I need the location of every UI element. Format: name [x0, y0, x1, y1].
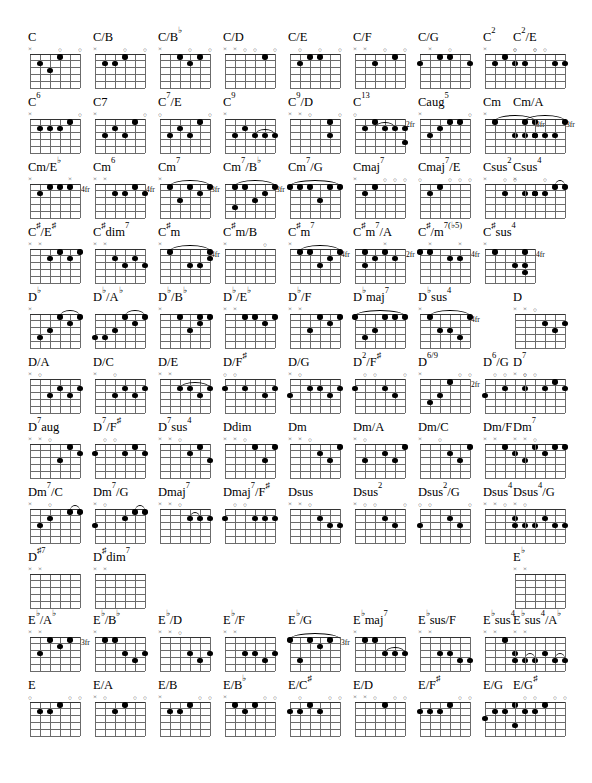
chord-cell[interactable]: D♭maj7: [353, 290, 417, 354]
chord-cell[interactable]: D/A×○: [28, 355, 92, 419]
open-string-icon: ○: [522, 501, 529, 508]
chord-cell[interactable]: C7/E○○: [158, 95, 222, 159]
chord-cell[interactable]: Cm/E♭××4fr: [28, 160, 92, 224]
chord-cell[interactable]: D♭/F××: [288, 290, 352, 354]
finger-dot: [242, 386, 247, 391]
chord-cell[interactable]: D♭×: [28, 290, 92, 354]
chord-cell[interactable]: D7sus4××○: [158, 420, 222, 484]
chord-cell[interactable]: Dmaj7××○: [158, 485, 222, 549]
chord-cell[interactable]: Caug5×○: [418, 95, 482, 159]
chord-cell[interactable]: D/E××: [158, 355, 222, 419]
open-string-icon: ○: [197, 694, 204, 701]
chord-cell[interactable]: D♭/A♭: [93, 290, 157, 354]
finger-dot: [542, 321, 547, 326]
chord-cell[interactable]: C♯/m7(♭5)××4fr: [418, 225, 482, 289]
chord-cell[interactable]: C♯sus4×4fr: [483, 225, 547, 289]
chord-cell[interactable]: D♯7××: [28, 550, 92, 614]
fretboard-grid: [420, 702, 470, 736]
chord-cell[interactable]: C♯/E♯××: [28, 225, 92, 289]
chord-cell[interactable]: C♯m×4fr: [158, 225, 222, 289]
chord-cell[interactable]: Cm/A3fr: [513, 95, 577, 159]
chord-cell[interactable]: E/A×○○○: [93, 678, 157, 742]
chord-cell[interactable]: C13○2fr: [353, 95, 417, 159]
chord-cell[interactable]: D2/F♯○○○: [353, 355, 417, 419]
chord-cell[interactable]: Cm7/G: [288, 160, 352, 224]
chord-cell[interactable]: C/B×○○: [93, 30, 157, 94]
chord-cell[interactable]: C7×○: [93, 95, 157, 159]
chord-cell[interactable]: Dsus2/G○○○: [418, 485, 482, 549]
chord-cell[interactable]: E○○○: [28, 678, 92, 742]
open-string-icon: ○: [37, 371, 44, 378]
chord-cell[interactable]: E♭/D××○: [158, 613, 222, 677]
chord-cell[interactable]: E/B×○○: [158, 678, 222, 742]
chord-cell[interactable]: E/B♭×○○: [223, 678, 287, 742]
chord-cell[interactable]: C/B♭×○○: [158, 30, 222, 94]
chord-cell[interactable]: C9×: [223, 95, 287, 159]
chord-cell[interactable]: D/F♯○○: [223, 355, 287, 419]
chord-cell[interactable]: E/G♯○○: [513, 678, 577, 742]
chord-cell[interactable]: E♭/A♭××3fr: [28, 613, 92, 677]
chord-cell[interactable]: Dm7/G×○: [93, 485, 157, 549]
chord-cell[interactable]: E♭/F××: [223, 613, 287, 677]
chord-cell[interactable]: Dm××○: [288, 420, 352, 484]
chord-cell[interactable]: Ddim××○: [223, 420, 287, 484]
chord-cell[interactable]: C/F××○○: [353, 30, 417, 94]
chord-cell[interactable]: E♭sus/F××: [418, 613, 482, 677]
chord-cell[interactable]: C6×○: [28, 95, 92, 159]
chord-diagram: ○○: [225, 501, 287, 547]
chord-cell[interactable]: D♭sus4×4fr: [418, 290, 482, 354]
chord-cell[interactable]: Dsus2×○○○: [353, 485, 417, 549]
chord-cell[interactable]: Dm7××○: [513, 420, 577, 484]
chord-cell[interactable]: C♯m7×4fr: [288, 225, 352, 289]
chord-cell[interactable]: Csus4×○: [513, 160, 577, 224]
chord-cell[interactable]: Cm6××4fr: [93, 160, 157, 224]
string-markers: ×○○: [515, 371, 567, 378]
chord-cell[interactable]: D7aug××○: [28, 420, 92, 484]
chord-cell[interactable]: E♭/B♭×: [93, 613, 157, 677]
chord-cell[interactable]: C/D××○○○: [223, 30, 287, 94]
finger-dot: [177, 314, 182, 319]
chord-cell[interactable]: Dm7/C×○: [28, 485, 92, 549]
chord-cell[interactable]: Dmaj7/F♯○○: [223, 485, 287, 549]
chord-cell[interactable]: C2/E○○○: [513, 30, 577, 94]
open-string-icon: ○: [457, 176, 464, 183]
open-string-icon: ○: [77, 694, 84, 701]
chord-cell[interactable]: D♭/B♭×: [158, 290, 222, 354]
finger-dot: [392, 54, 397, 59]
chord-cell[interactable]: C♯dim7××: [93, 225, 157, 289]
chord-cell[interactable]: C/E○○○: [288, 30, 352, 94]
chord-cell[interactable]: D6/9×○○2fr: [418, 355, 482, 419]
chord-cell[interactable]: E/C♯○○○: [288, 678, 352, 742]
chord-cell[interactable]: E♭××: [513, 550, 577, 614]
chord-cell[interactable]: E♭/G3fr: [288, 613, 352, 677]
chord-cell[interactable]: D7/F♯○○: [93, 420, 157, 484]
chord-cell[interactable]: Dm/C×○: [418, 420, 482, 484]
chord-cell[interactable]: C♯m/B×○: [223, 225, 287, 289]
chord-cell[interactable]: D♭/E♭××: [223, 290, 287, 354]
chord-cell[interactable]: E/D××○○○: [353, 678, 417, 742]
open-string-icon: ○: [392, 176, 399, 183]
chord-cell[interactable]: D/G×○: [288, 355, 352, 419]
chord-cell[interactable]: D××○: [513, 290, 577, 354]
chord-cell[interactable]: D7×○○: [513, 355, 577, 419]
chord-cell[interactable]: Dm/A×○: [353, 420, 417, 484]
chord-diagram: ×○: [30, 371, 92, 417]
chord-cell[interactable]: C×○○: [28, 30, 92, 94]
muted-string-icon: ×: [37, 436, 44, 443]
chord-cell[interactable]: E/F♯○○: [418, 678, 482, 742]
chord-cell[interactable]: Cmaj7/E○○○○: [418, 160, 482, 224]
finger-dot: [142, 263, 147, 268]
chord-cell[interactable]: Cmaj7×○○○: [353, 160, 417, 224]
chord-cell[interactable]: D/C×○: [93, 355, 157, 419]
chord-cell[interactable]: C9/D××○○: [288, 95, 352, 159]
chord-cell[interactable]: E♭maj7×: [353, 613, 417, 677]
chord-cell[interactable]: D♯dim7××: [93, 550, 157, 614]
chord-cell[interactable]: Cm7×3fr: [158, 160, 222, 224]
chord-cell[interactable]: Dsus××○: [288, 485, 352, 549]
chord-cell[interactable]: C/G×○: [418, 30, 482, 94]
chord-cell[interactable]: Cm7/B♭3fr: [223, 160, 287, 224]
chord-cell[interactable]: C♯m7/A×2fr: [353, 225, 417, 289]
string-markers: ○○: [420, 694, 472, 701]
chord-cell[interactable]: Dsus4/G×○: [513, 485, 577, 549]
chord-cell[interactable]: E♭sus4/A♭××: [513, 613, 577, 677]
